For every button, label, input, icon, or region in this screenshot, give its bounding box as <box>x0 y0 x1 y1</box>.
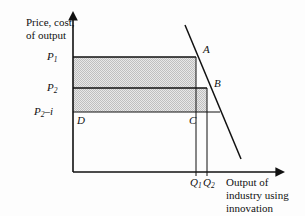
point-label-a: A <box>203 43 210 56</box>
x-axis-title-line3: innovation <box>226 202 273 214</box>
y-tick-label-p2: P2 <box>47 81 57 94</box>
economics-diagram: Price, cost,of output Output ofindustry … <box>0 0 305 216</box>
x-axis-title-line1: Output of <box>226 176 268 188</box>
y-axis-title: Price, cost,of output <box>26 16 75 42</box>
y-axis-title-line2: of output <box>26 29 66 41</box>
y-tick-base-p2: P <box>47 81 54 93</box>
y-tick-sub-p2: 2 <box>54 86 58 95</box>
x-tick-sub-q1: 1 <box>198 181 202 190</box>
x-tick-label-q1: Q1 <box>190 176 202 189</box>
x-axis-title: Output ofindustry usinginnovation <box>226 176 289 215</box>
shaded-region-upper <box>73 57 196 88</box>
y-tick-sub-p2i: 2 <box>41 110 45 119</box>
y-tick-suffix-p2i: –i <box>44 105 53 117</box>
x-tick-base-q2: Q <box>203 176 211 188</box>
point-label-d: D <box>77 114 85 127</box>
y-axis-title-line1: Price, cost, <box>26 16 75 28</box>
x-tick-base-q1: Q <box>190 176 198 188</box>
point-label-b: B <box>214 77 221 90</box>
shaded-region-lower <box>73 88 207 112</box>
x-tick-sub-q2: 2 <box>211 181 215 190</box>
y-tick-base-p1: P <box>47 50 54 62</box>
y-tick-label-p2-minus-i: P2–i <box>34 105 53 118</box>
y-tick-base-p2i: P <box>34 105 41 117</box>
x-tick-label-q2: Q2 <box>203 176 215 189</box>
point-label-c: C <box>189 114 196 127</box>
y-tick-sub-p1: 1 <box>54 55 58 64</box>
y-tick-label-p1: P1 <box>47 50 57 63</box>
x-axis-title-line2: industry using <box>226 189 289 201</box>
